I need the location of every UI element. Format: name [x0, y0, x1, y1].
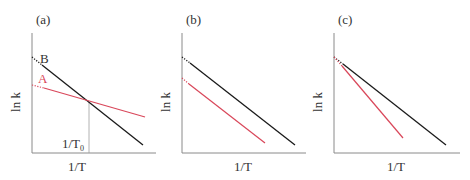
series-red-line — [342, 66, 403, 138]
panel-c: (c) ln k 1/T — [310, 12, 460, 174]
series-a-label: A — [38, 71, 48, 86]
series-b-line — [42, 65, 143, 145]
panel-c-label: (c) — [338, 12, 352, 27]
x-axis-title: 1/T — [387, 159, 405, 174]
panel-b: (b) ln k 1/T — [158, 12, 306, 174]
arrhenius-figure: (a) B A ln k 1/T 1/T0 (b) ln k 1/T (c) — [0, 0, 470, 180]
series-a-line — [44, 88, 145, 117]
x-axis-title: 1/T — [68, 159, 86, 174]
series-b-label: B — [40, 51, 49, 66]
panel-a: (a) B A ln k 1/T 1/T0 — [8, 12, 156, 174]
y-axis-title: ln k — [310, 92, 325, 112]
y-axis-title: ln k — [8, 92, 23, 112]
series-black-line — [190, 63, 295, 145]
y-axis-title: ln k — [158, 92, 173, 112]
series-red-dotted-extrapolation — [182, 78, 189, 84]
series-black-dotted-extrapolation — [334, 57, 343, 64]
series-red-line — [189, 84, 265, 143]
series-black-dotted-extrapolation — [182, 57, 190, 63]
x-axis-title: 1/T — [234, 159, 252, 174]
panel-b-label: (b) — [186, 12, 201, 27]
series-black-line — [343, 64, 446, 145]
panel-a-label: (a) — [36, 12, 50, 27]
t0-label: 1/T0 — [62, 136, 84, 153]
